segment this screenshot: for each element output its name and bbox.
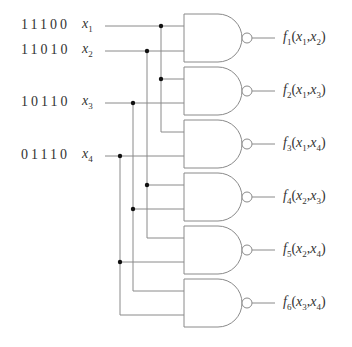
- junction-dot: [145, 49, 149, 53]
- input-var-x4: x4: [82, 146, 93, 164]
- input-var-x1: x1: [82, 16, 93, 34]
- nand-gate-3: [184, 120, 275, 168]
- output-label-f3: f3(x1,x4): [283, 135, 326, 153]
- output-label-f5: f5(x2,x4): [283, 241, 326, 259]
- junction-dot: [145, 183, 149, 187]
- junction-dot: [159, 24, 163, 28]
- output-label-f1: f1(x1,x2): [283, 29, 326, 47]
- output-label-f2: f2(x1,x3): [283, 82, 326, 100]
- nand-gate-4: [184, 173, 275, 221]
- junction-dot: [118, 154, 122, 158]
- input-bits-x1: 11100: [21, 17, 70, 33]
- junction-dot: [118, 260, 122, 264]
- nand-gate-2: [184, 67, 275, 115]
- var-subscript: 3: [88, 101, 93, 111]
- bus-x3: [133, 103, 184, 291]
- junction-dot: [131, 101, 135, 105]
- output-label-f6: f6(x3,x4): [283, 294, 326, 312]
- input-bits-x2: 11010: [21, 42, 70, 58]
- nand-gate-circuit-diagram: 11100 x1 11010 x2 10110 x3 01110 x4 f1(x…: [0, 0, 352, 347]
- output-label-f4: f4(x2,x3): [283, 188, 326, 206]
- junction-dot: [131, 207, 135, 211]
- nand-gate-5: [184, 226, 275, 274]
- var-subscript: 4: [88, 154, 93, 164]
- input-var-x2: x2: [82, 41, 93, 59]
- input-bits-x3: 10110: [21, 94, 70, 110]
- junction-dot: [159, 77, 163, 81]
- input-var-x3: x3: [82, 93, 93, 111]
- input-bits-x4: 01110: [21, 147, 70, 163]
- nand-gate-6: [184, 279, 275, 327]
- var-subscript: 2: [88, 49, 93, 59]
- var-subscript: 1: [88, 24, 93, 34]
- nand-gate-1: [184, 14, 275, 62]
